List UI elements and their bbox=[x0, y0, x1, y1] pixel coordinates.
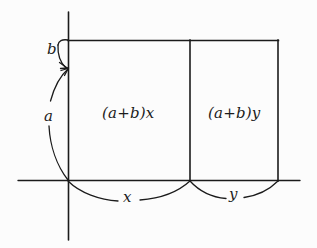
dimension-label-y: y bbox=[229, 185, 237, 203]
brace-y-right-arc bbox=[244, 181, 278, 198]
brace-x-left-arc bbox=[68, 181, 118, 201]
brace-y-left-arc bbox=[190, 181, 226, 199]
brace-b-hook bbox=[58, 40, 68, 45]
dimension-label-a: a bbox=[44, 107, 53, 125]
region-label-left: (a+b)x bbox=[102, 104, 154, 122]
brace-a-lower-arc bbox=[49, 126, 68, 180]
coordinate-axes bbox=[18, 12, 300, 240]
brace-x-right-arc bbox=[140, 181, 190, 200]
brace-segment-b bbox=[58, 40, 68, 71]
region-label-right: (a+b)y bbox=[208, 104, 261, 122]
dimension-label-x: x bbox=[123, 188, 131, 206]
dimension-label-b: b bbox=[47, 40, 57, 58]
distributive-law-figure: (a+b)x (a+b)y a b x y bbox=[0, 0, 317, 248]
